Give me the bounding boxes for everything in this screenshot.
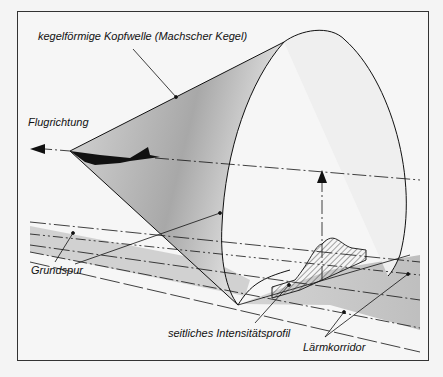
label-noise-corridor: Lärmkorridor <box>303 341 365 353</box>
label-intensity-profile: seitliches Intensitätsprofil <box>168 327 290 339</box>
label-mach-cone: kegelförmige Kopfwelle (Machscher Kegel) <box>38 30 247 42</box>
sonic-boom-figure <box>0 0 443 377</box>
label-flight-direction: Flugrichtung <box>28 116 89 128</box>
label-ground-track: Grundspur <box>31 264 83 276</box>
